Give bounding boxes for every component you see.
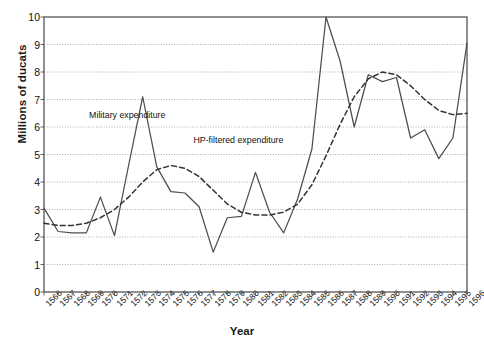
annotation-label: Military expenditure (89, 110, 165, 120)
plot-area (0, 0, 484, 349)
annotation-label: HP-filtered expenditure (193, 135, 283, 145)
series-line-hp-filtered-expenditure (44, 72, 467, 225)
chart-figure: Millions of ducats Year 012345678910 156… (0, 0, 484, 349)
